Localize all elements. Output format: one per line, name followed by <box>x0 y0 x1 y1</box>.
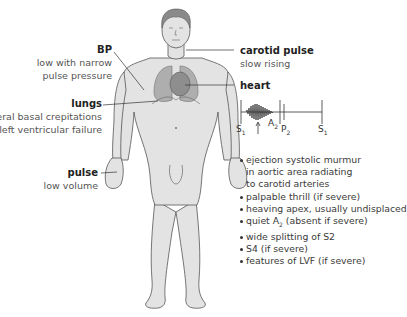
s1-right-label: S1 <box>318 124 328 136</box>
carotid-title: carotid pulse <box>240 44 314 57</box>
p2-label: P2 <box>281 124 290 136</box>
feature-item: S4 (if severe) <box>240 243 407 255</box>
bullet-icon <box>240 236 243 239</box>
bullet-icon <box>240 260 243 263</box>
feature-item: features of LVF (if severe) <box>240 255 407 267</box>
bp-title: BP <box>37 43 112 56</box>
bullet-icon <box>240 159 243 162</box>
feature-item: ejection systolic murmur <box>240 154 407 166</box>
lungs-label: lungs bilateral basal crepitations due t… <box>0 97 102 136</box>
feature-item: palpable thrill (if severe) <box>240 191 407 203</box>
bp-label: BP low with narrow pulse pressure <box>37 43 112 82</box>
bullet-icon <box>240 220 243 223</box>
heart-organ <box>170 72 190 96</box>
heart-label: heart <box>240 79 270 92</box>
feature-item: heaving apex, usually undisplaced <box>240 203 407 215</box>
bullet-icon <box>240 248 243 251</box>
feature-item: quiet A2 (absent if severe) <box>240 215 407 231</box>
carotid-label: carotid pulse slow rising <box>240 44 314 70</box>
s1-left-label: S1 <box>236 124 246 136</box>
bullet-icon <box>240 196 243 199</box>
heart-features-list: ejection systolic murmur in aortic area … <box>240 154 407 268</box>
feature-item: wide splitting of S2 <box>240 231 407 243</box>
pulse-label: pulse low volume <box>44 166 98 192</box>
a2-label: A2 <box>268 118 278 130</box>
lungs-title: lungs <box>0 97 102 110</box>
heart-title: heart <box>240 79 270 92</box>
bullet-icon <box>240 208 243 211</box>
pulse-title: pulse <box>44 166 98 179</box>
